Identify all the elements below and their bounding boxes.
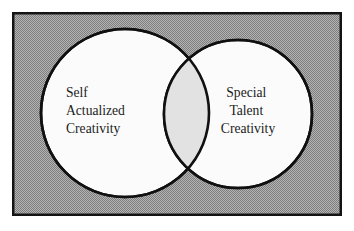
venn-diagram-canvas: Self Actualized Creativity Special Talen… bbox=[0, 0, 354, 231]
venn-label-right-line-2: Talent bbox=[229, 103, 263, 118]
venn-label-right-line-3: Creativity bbox=[221, 121, 276, 136]
venn-diagram-figure: Self Actualized Creativity Special Talen… bbox=[0, 0, 354, 231]
venn-label-left-line-2: Actualized bbox=[66, 103, 125, 118]
venn-label-left-line-1: Self bbox=[66, 85, 88, 100]
venn-label-left-line-3: Creativity bbox=[66, 121, 121, 136]
venn-label-right-line-1: Special bbox=[226, 85, 266, 100]
